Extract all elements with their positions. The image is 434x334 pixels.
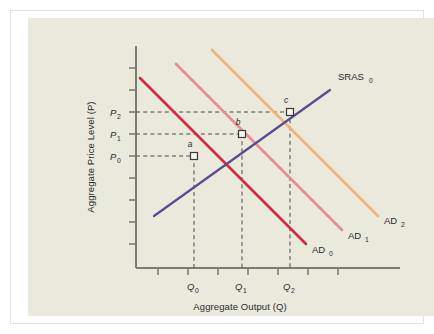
curve-label-ad0-sub: 0: [329, 250, 333, 257]
curve-ad1: [176, 64, 342, 230]
curve-sras0: [154, 90, 330, 216]
equilibrium-label-b: b: [236, 117, 241, 127]
equilibrium-marker-a: [191, 153, 198, 160]
curve-label-ad1-text: AD: [348, 230, 361, 241]
equilibrium-label-a: a: [188, 139, 193, 149]
curve-label-ad2: AD 2: [384, 215, 405, 228]
x-tick-label-q2-sub: 2: [291, 287, 295, 294]
curve-label-ad2-sub: 2: [401, 221, 405, 228]
curve-label-ad0-text: AD: [312, 244, 325, 255]
curve-label-ad1: AD 1: [348, 230, 369, 243]
y-axis-ticks: [129, 68, 136, 244]
y-tick-label-p1-sub: 1: [117, 135, 121, 142]
chart-panel: a b c SRAS 0 AD 2 AD 1 AD 0 P: [28, 18, 434, 316]
y-tick-label-p2: P 2: [110, 107, 121, 120]
x-tick-label-q2-text: Q: [283, 281, 291, 292]
curve-label-sras0-text: SRAS: [338, 71, 364, 82]
y-axis-title: Aggregate Price Level (P): [85, 101, 96, 212]
curve-ad0: [140, 78, 306, 244]
y-tick-label-p0-sub: 0: [117, 157, 121, 164]
equilibrium-label-c: c: [284, 95, 289, 105]
curve-label-ad1-sub: 1: [365, 236, 369, 243]
x-axis-title: Aggregate Output (Q): [193, 301, 286, 312]
x-axis-ticks: [158, 268, 338, 275]
curve-label-sras0: SRAS 0: [338, 71, 373, 84]
figure-root: a b c SRAS 0 AD 2 AD 1 AD 0 P: [0, 0, 434, 334]
x-tick-label-q2: Q 2: [283, 281, 295, 294]
x-tick-label-q0-sub: 0: [195, 287, 199, 294]
y-tick-label-p0-text: P: [110, 151, 117, 162]
ad-sras-plot: a b c SRAS 0 AD 2 AD 1 AD 0 P: [28, 18, 434, 316]
y-tick-label-p2-sub: 2: [117, 113, 121, 120]
x-tick-label-q1-text: Q: [235, 281, 243, 292]
curve-label-ad0: AD 0: [312, 244, 333, 257]
x-tick-label-q1: Q 1: [235, 281, 247, 294]
x-tick-label-q0: Q 0: [187, 281, 199, 294]
equilibrium-marker-b: [239, 131, 246, 138]
curve-label-ad2-text: AD: [384, 215, 397, 226]
x-tick-label-q0-text: Q: [187, 281, 195, 292]
y-tick-label-p1: P 1: [110, 129, 121, 142]
y-tick-label-p2-text: P: [110, 107, 117, 118]
y-tick-label-p0: P 0: [110, 151, 121, 164]
x-tick-label-q1-sub: 1: [243, 287, 247, 294]
equilibrium-marker-c: [287, 109, 294, 116]
curve-label-sras0-sub: 0: [369, 77, 373, 84]
y-tick-label-p1-text: P: [110, 129, 117, 140]
